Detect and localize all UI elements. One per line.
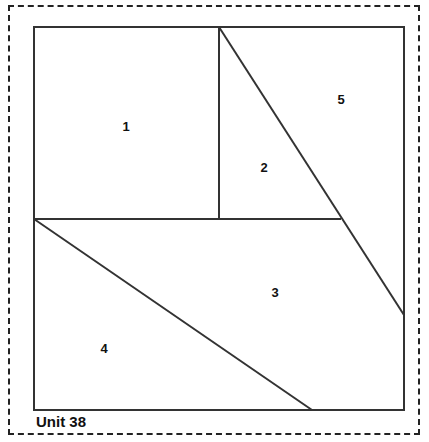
quilt-block-diagram bbox=[0, 0, 429, 442]
piece-label-1: 1 bbox=[122, 120, 129, 133]
piece-label-4: 4 bbox=[100, 342, 107, 355]
unit-caption: Unit 38 bbox=[36, 414, 86, 431]
piece-label-2: 2 bbox=[260, 161, 267, 174]
diagram-page: 1 2 3 4 5 Unit 38 bbox=[0, 0, 429, 442]
piece-label-5: 5 bbox=[337, 93, 344, 106]
piece-label-3: 3 bbox=[271, 286, 278, 299]
